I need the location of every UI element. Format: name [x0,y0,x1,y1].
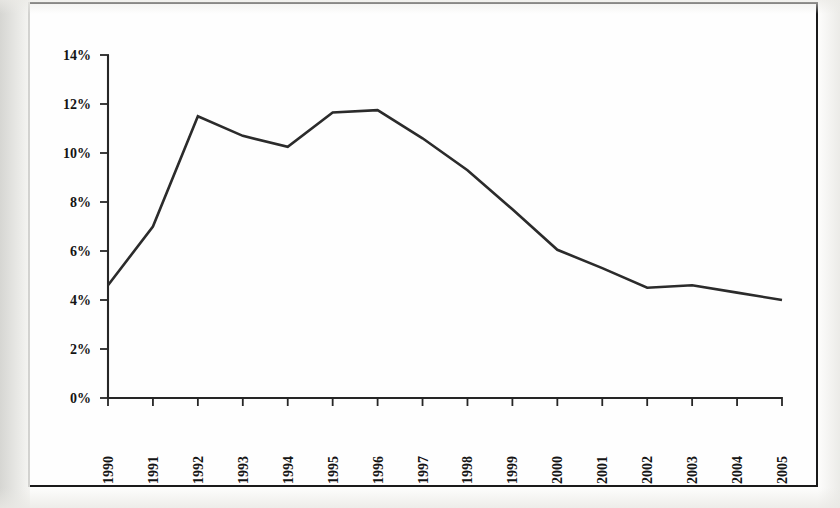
x-axis-tick-label: 2000 [550,456,565,484]
x-axis-tick-label: 1991 [146,456,161,484]
x-axis-tick-label: 2003 [685,456,700,484]
figure-container: 0%2%4%6%8%10%12%14% 19901991199219931994… [0,0,840,508]
y-axis-tick-label: 14% [63,48,91,63]
y-axis-tick-labels: 0%2%4%6%8%10%12%14% [63,48,91,406]
x-axis-tick-label: 1996 [371,456,386,484]
y-axis-tick-label: 8% [70,195,91,210]
x-axis-tick-label: 1994 [281,456,296,484]
line-chart: 0%2%4%6%8%10%12%14% 19901991199219931994… [0,0,840,508]
y-axis-tick-label: 0% [70,391,91,406]
y-axis-tick-label: 10% [63,146,91,161]
y-axis-tick-label: 12% [63,97,91,112]
x-axis-tick-label: 2001 [595,456,610,484]
x-axis-tick-label: 2004 [730,456,745,484]
y-axis-tick-label: 2% [70,342,91,357]
x-axis-tick-label: 2002 [640,456,655,484]
y-axis-tick-label: 6% [70,244,91,259]
x-axis-tick-label: 2005 [775,456,790,484]
y-axis-tick-label: 4% [70,293,91,308]
data-series-line [108,110,782,300]
x-axis-tick-label: 1999 [505,456,520,484]
x-axis-tick-label: 1990 [101,456,116,484]
x-axis-tick-label: 1997 [416,456,431,484]
x-axis-tick-label: 1998 [460,456,475,484]
x-axis-tick-labels: 1990199119921993199419951996199719981999… [101,456,790,484]
x-axis-tick-label: 1995 [326,456,341,484]
x-axis-tick-label: 1993 [236,456,251,484]
x-axis-tick-label: 1992 [191,456,206,484]
plot-area: 0%2%4%6%8%10%12%14% 19901991199219931994… [0,0,840,508]
